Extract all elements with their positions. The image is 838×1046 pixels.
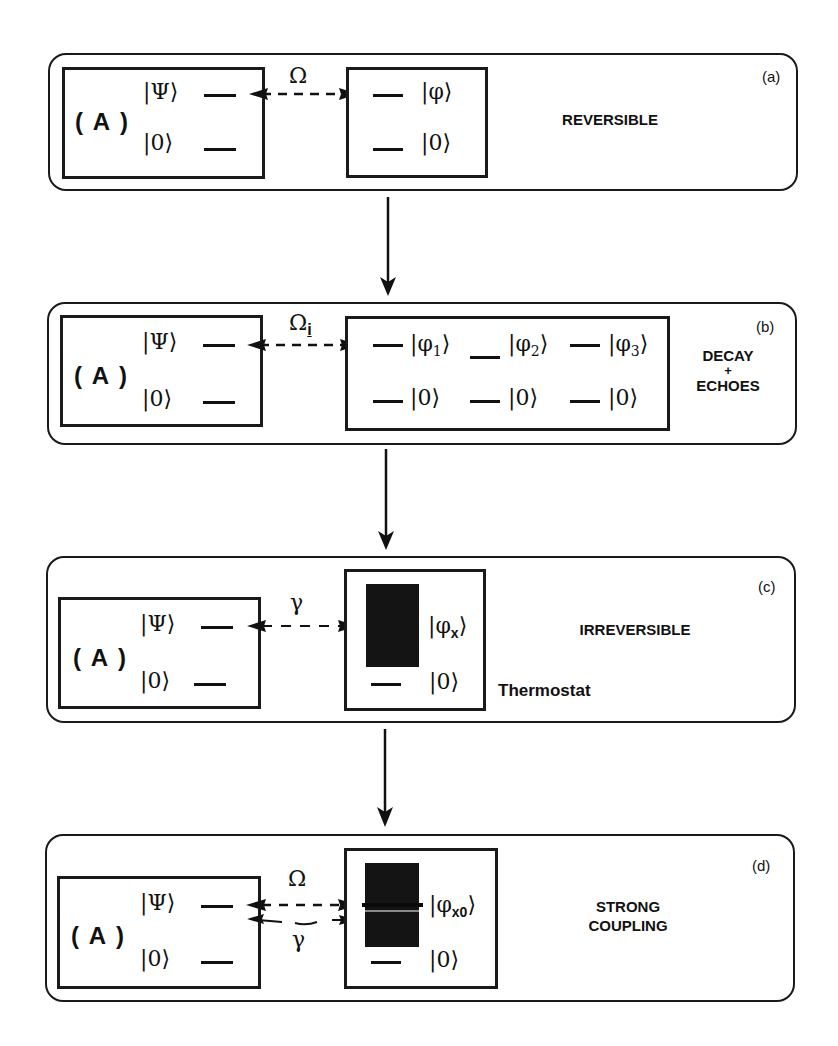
panel-d-partner-upper-state: |φx0⟩ <box>429 893 476 924</box>
panel-d-partner-lower-state: |0⟩ <box>429 948 459 972</box>
panel-d-tag: (d) <box>752 857 770 874</box>
panel-d-partner-lower-level <box>371 961 401 964</box>
panel-d-regime-label: STRONG COUPLING <box>573 897 683 935</box>
panel-d-discrete-level <box>362 903 423 907</box>
panel-d-continuum-gap <box>365 910 419 912</box>
